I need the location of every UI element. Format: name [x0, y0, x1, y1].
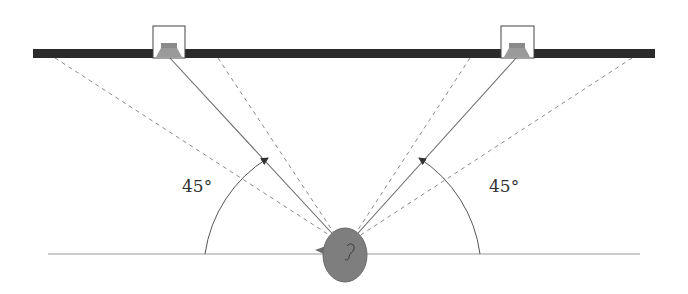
right-angle-label: 45° [489, 176, 519, 196]
wall-bar [33, 49, 655, 58]
left-speaker [153, 26, 185, 58]
right-speaker [501, 26, 534, 58]
listener-head [315, 228, 367, 282]
left-angle-arc-icon [205, 158, 268, 254]
speaker-axis-lines [169, 57, 517, 242]
diagram-canvas [0, 0, 688, 294]
dashed-coverage-lines [55, 58, 632, 242]
left-angle-label: 45° [182, 176, 212, 196]
right-angle-arc-icon [419, 158, 480, 254]
